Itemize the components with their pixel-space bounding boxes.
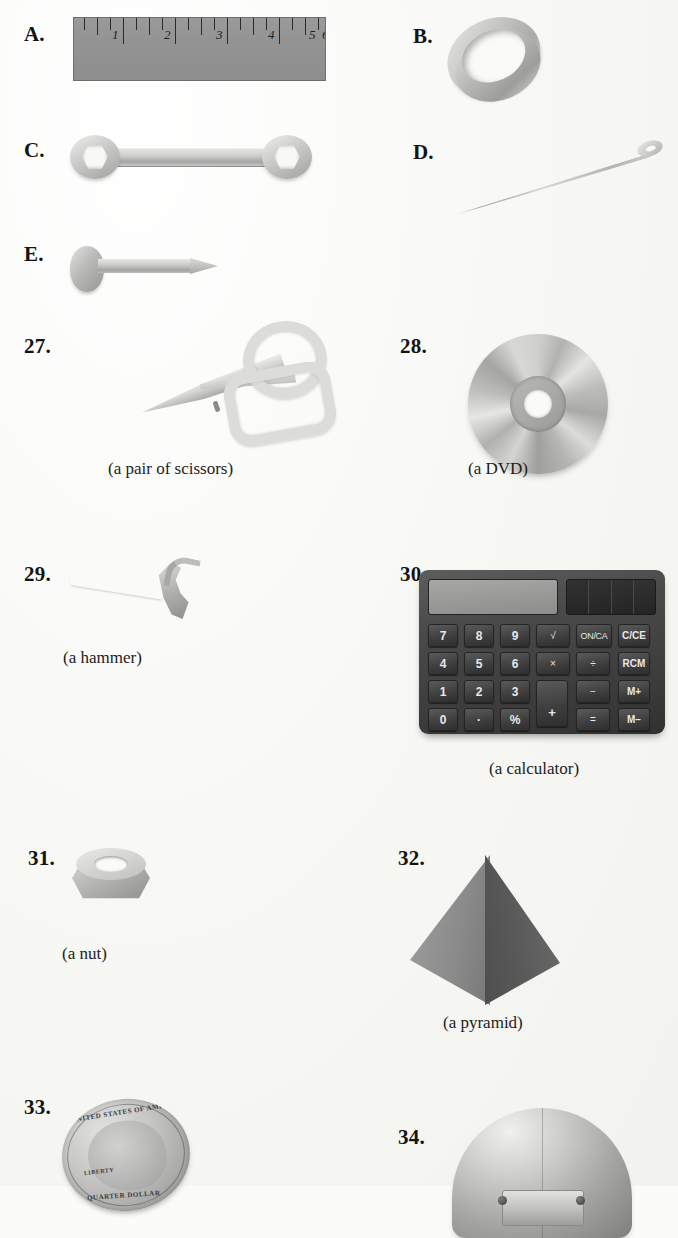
ruler-tick (136, 18, 137, 30)
hammer-shape (70, 557, 210, 633)
nut-shape (70, 848, 154, 910)
ring-illustration (450, 18, 546, 114)
metal-dome-shape (452, 1108, 632, 1238)
ruler-illustration: 1 2 3 4 5 6 (73, 17, 326, 81)
calc-key-decimal[interactable]: · (464, 708, 494, 731)
caption-27: (a pair of scissors) (108, 459, 233, 479)
needle-body (454, 153, 651, 217)
nut-illustration (70, 848, 154, 910)
caption-31: (a nut) (62, 944, 107, 964)
ruler-number: 3 (216, 27, 223, 43)
calc-key-2[interactable]: 2 (464, 680, 494, 703)
calc-key-0[interactable]: 0 (428, 708, 458, 731)
calc-key-m-minus[interactable]: M− (618, 708, 650, 731)
item-d: D. (413, 140, 434, 165)
ruler-tick (240, 18, 241, 30)
ruler-number: 1 (112, 27, 119, 43)
scissors-shape (140, 315, 340, 465)
calc-key-on-ca[interactable]: ON/CA (576, 624, 612, 647)
wrench-hex-opening (274, 145, 300, 169)
pyramid-illustration (410, 855, 560, 1005)
item-label-31: 31. (28, 846, 55, 870)
dvd-illustration (468, 334, 608, 474)
calc-key-6[interactable]: 6 (500, 652, 530, 675)
ruler-tick (110, 18, 111, 30)
ruler-tick (97, 18, 98, 35)
needle-shape (455, 135, 665, 225)
coin-illustration: UNITED STATES OF AMERICA LIBERTY QUARTER… (62, 1099, 190, 1211)
ruler-tick-major (227, 18, 228, 44)
calc-key-4[interactable]: 4 (428, 652, 458, 675)
quarter-coin: UNITED STATES OF AMERICA LIBERTY QUARTER… (56, 1092, 197, 1219)
keypad-col-2: 8 5 2 · (464, 624, 494, 731)
calc-key-9[interactable]: 9 (500, 624, 530, 647)
dome-rivet-right (576, 1196, 585, 1205)
calc-key-8[interactable]: 8 (464, 624, 494, 647)
calc-key-plus[interactable]: + (536, 680, 568, 727)
hammer-handle (69, 569, 166, 600)
coin-legend-bottom: QUARTER DOLLAR (87, 1189, 161, 1202)
metal-dome-illustration (452, 1108, 632, 1238)
calc-key-equals[interactable]: = (576, 708, 610, 731)
calc-key-7[interactable]: 7 (428, 624, 458, 647)
item-a: A. (24, 22, 45, 47)
wrench-hex-opening (82, 145, 108, 169)
pyramid-face-left (410, 855, 490, 1005)
calc-key-1[interactable]: 1 (428, 680, 458, 703)
calc-key-clear[interactable]: C/CE (618, 624, 650, 647)
item-b: B. (413, 24, 433, 49)
calc-key-5[interactable]: 5 (464, 652, 494, 675)
ruler-tick (292, 18, 293, 30)
ruler-number: 2 (164, 27, 171, 43)
item-label-29: 29. (24, 562, 51, 586)
keypad-col-4: √ × + (536, 624, 570, 731)
wrench-shape (62, 133, 320, 181)
solar-cell (589, 580, 611, 614)
calc-key-rcm[interactable]: RCM (618, 652, 650, 675)
calc-key-divide[interactable]: ÷ (576, 652, 610, 675)
calc-key-m-plus[interactable]: M+ (618, 680, 650, 703)
calc-key-multiply[interactable]: × (536, 652, 570, 675)
caption-28: (a DVD) (468, 459, 528, 479)
nut-thread-hole (94, 856, 128, 872)
pyramid-face-right (485, 855, 560, 1005)
ruler-tick (318, 18, 319, 30)
ruler-tick-major (123, 18, 124, 44)
nail-shape (70, 243, 220, 297)
ruler-tick (266, 18, 267, 30)
scissors-illustration (140, 315, 340, 465)
needle-illustration (455, 135, 665, 225)
item-28: 28. (400, 334, 427, 359)
keypad-col-5: ON/CA ÷ − = (576, 624, 612, 731)
calc-key-percent[interactable]: % (500, 708, 530, 731)
keypad-col-1: 7 4 1 0 (428, 624, 458, 731)
item-label-33: 33. (24, 1095, 51, 1119)
wrench-ring-right (262, 135, 312, 179)
calc-key-minus[interactable]: − (576, 680, 610, 703)
coin-legend-liberty: LIBERTY (84, 1167, 115, 1177)
ring-shape (435, 3, 562, 130)
hammer-illustration (70, 557, 210, 633)
calc-key-sqrt[interactable]: √ (536, 624, 570, 647)
item-31: 31. (28, 846, 55, 871)
ruler-number: 4 (268, 27, 275, 43)
solar-cell (567, 580, 589, 614)
coin-inscriptions: UNITED STATES OF AMERICA LIBERTY QUARTER… (56, 1092, 197, 1219)
item-33: 33. (24, 1095, 51, 1120)
ruler-tick (162, 18, 163, 30)
wrench-shaft (106, 148, 278, 167)
ruler-tick (188, 18, 189, 30)
calculator-illustration: 7 4 1 0 8 5 2 · 9 6 3 % (419, 570, 665, 734)
item-label-b: B. (413, 24, 433, 48)
scissors-pivot-screw (212, 400, 220, 412)
keypad-col-3: 9 6 3 % (500, 624, 530, 731)
coin-legend-top: UNITED STATES OF AMERICA (71, 1099, 184, 1125)
dvd-center-hole (524, 390, 552, 418)
item-e: E. (24, 242, 44, 267)
item-29: 29. (24, 562, 51, 587)
nail-shaft (98, 259, 194, 273)
dome-handle (502, 1190, 584, 1226)
calc-key-3[interactable]: 3 (500, 680, 530, 703)
dvd-disc (468, 334, 608, 474)
nail-tip (190, 258, 218, 274)
